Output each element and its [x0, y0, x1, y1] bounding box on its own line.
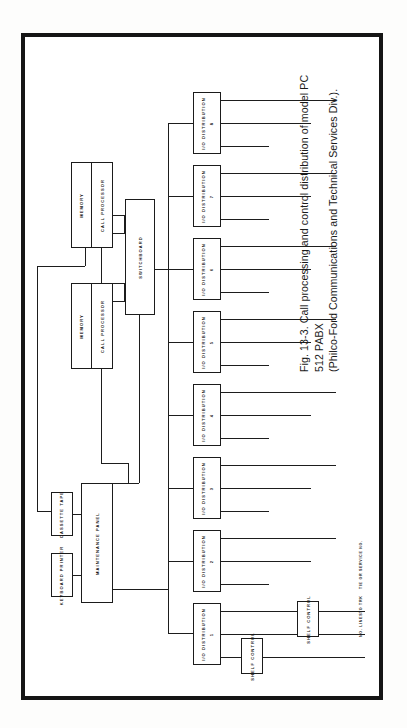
processor-down-feed — [128, 463, 129, 483]
shelf-control-label: SHELF CONTROL — [249, 632, 256, 680]
memory-label-bottom-wrap: MEMORY — [71, 283, 91, 369]
io-distribution-label: I/O DISTRIBUTION2 — [200, 535, 215, 588]
edge-label-lines: NO. LINES — [359, 613, 364, 637]
bus-stub — [168, 342, 194, 343]
io-output-line — [221, 438, 269, 439]
io-output-line — [221, 219, 269, 220]
processor-interlink — [101, 248, 102, 283]
io-distribution-block[interactable]: I/O DISTRIBUTION4 — [193, 384, 221, 446]
panel-to-bus — [113, 589, 168, 590]
io-distribution-block[interactable]: I/O DISTRIBUTION8 — [193, 92, 221, 154]
bus-stub — [168, 123, 194, 124]
io-distribution-label: I/O DISTRIBUTION3 — [200, 462, 215, 515]
scanned-page: I/O DISTRIBUTION8 I/O DISTRIBUTION7 I/O … — [0, 0, 407, 728]
shelf-control-label: SHELF CONTROL — [305, 595, 312, 643]
io-distribution-block[interactable]: I/O DISTRIBUTION7 — [193, 165, 221, 227]
io-output-line — [221, 146, 269, 147]
io-output-line — [221, 611, 365, 612]
io-output-line — [221, 538, 336, 539]
panel-top-feed — [113, 483, 139, 484]
io-output-line — [221, 584, 269, 585]
io-distribution-label: I/O DISTRIBUTION4 — [200, 389, 215, 442]
call-processor-label-bottom-wrap: CALL PROCESSOR — [92, 283, 113, 369]
processor-top-to-switchboard — [113, 233, 125, 234]
io-distribution-block[interactable]: I/O DISTRIBUTION6 — [193, 238, 221, 300]
maintenance-panel-block[interactable]: MAINTENANCE PANEL — [81, 483, 113, 603]
maintenance-panel-label: MAINTENANCE PANEL — [94, 512, 101, 575]
keyboard-printer-label: KEYBOARD PRINTER — [59, 545, 66, 604]
io-distribution-label: I/O DISTRIBUTION1 — [200, 608, 215, 661]
io-output-line — [221, 561, 311, 562]
memory-label-top-wrap: MEMORY — [71, 162, 91, 248]
io-output-line — [221, 365, 269, 366]
cassette-tape-label: CASSETTE TAPE — [59, 490, 66, 537]
shelf-control-block-2[interactable]: SHELF CONTROL — [297, 601, 319, 637]
bus-stub — [168, 269, 194, 270]
processor-bottom-to-switchboard — [124, 283, 125, 301]
io-distribution-label: I/O DISTRIBUTION6 — [200, 243, 215, 296]
io-distribution-block[interactable]: I/O DISTRIBUTION2 — [193, 530, 221, 592]
switchboard-block[interactable]: SWITCHBOARD — [125, 199, 155, 315]
bus-stub — [168, 488, 194, 489]
io-output-line — [221, 465, 336, 466]
cassette-to-panel — [73, 514, 81, 515]
processor-down-feed — [101, 463, 129, 464]
switchboard-to-maintenance — [139, 315, 140, 483]
processor-down-feed — [101, 369, 102, 463]
switchboard-label: SWITCHBOARD — [137, 236, 144, 279]
cassette-tape-block[interactable]: CASSETTE TAPE — [51, 492, 73, 536]
caption-line-1: Fig. 13-3. Call processing and control d… — [298, 75, 325, 372]
io-distribution-block[interactable]: I/O DISTRIBUTION5 — [193, 311, 221, 373]
io-output-line — [221, 292, 269, 293]
bus-stub — [168, 196, 194, 197]
io-output-line — [221, 634, 365, 635]
keyboard-printer-block[interactable]: KEYBOARD PRINTER — [51, 553, 73, 597]
processor-to-left-bus — [37, 266, 85, 267]
edge-label-trunks: TO TRK — [359, 595, 364, 613]
io-distribution-block[interactable]: I/O DISTRIBUTION3 — [193, 457, 221, 519]
processor-top-to-switchboard — [124, 215, 125, 233]
shelf-control-block-1[interactable]: SHELF CONTROL — [241, 638, 263, 674]
edge-label-tie-service: TIE OR SERVICE NO. — [359, 540, 364, 589]
io-distribution-block[interactable]: I/O DISTRIBUTION1 — [193, 603, 221, 665]
io-distribution-label: I/O DISTRIBUTION7 — [200, 170, 215, 223]
io-output-line — [221, 392, 336, 393]
distribution-bus — [168, 123, 169, 633]
io-distribution-label: I/O DISTRIBUTION5 — [200, 316, 215, 369]
io-output-line — [221, 511, 269, 512]
caption-line-2: (Philco-Ford Communications and Technica… — [326, 72, 341, 372]
call-processor-label-top-wrap: CALL PROCESSOR — [92, 162, 113, 248]
bus-stub — [168, 633, 194, 634]
processor-bottom-to-switchboard — [113, 301, 125, 302]
left-return-bus — [37, 266, 38, 512]
keyboard-to-panel — [73, 575, 81, 576]
figure-caption: Fig. 13-3. Call processing and control d… — [297, 72, 341, 372]
switchboard-to-bus — [155, 269, 168, 270]
bus-stub — [168, 561, 194, 562]
processor-to-left-bus — [85, 248, 86, 266]
io-output-line — [221, 488, 311, 489]
io-output-line — [221, 415, 311, 416]
bus-stub — [168, 415, 194, 416]
io-distribution-label: I/O DISTRIBUTION8 — [200, 97, 215, 150]
